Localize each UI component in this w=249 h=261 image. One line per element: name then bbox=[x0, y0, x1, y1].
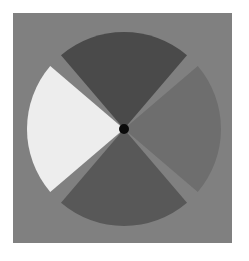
spinner-disc[interactable] bbox=[0, 0, 249, 261]
disc-svg bbox=[0, 0, 249, 261]
center-pivot-dot[interactable] bbox=[119, 124, 129, 134]
figure-canvas bbox=[0, 0, 249, 261]
